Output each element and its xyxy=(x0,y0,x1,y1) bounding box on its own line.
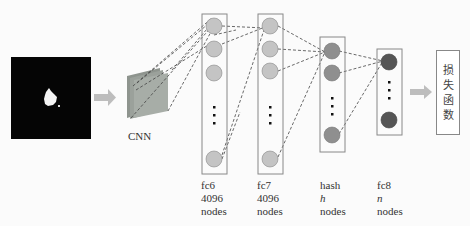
loss-char: 函 xyxy=(443,93,454,108)
layer-fc7 xyxy=(258,14,283,174)
arrow-right-icon xyxy=(94,89,116,106)
layer-label-hash: hash h nodes xyxy=(320,179,346,218)
loss-char: 损 xyxy=(443,63,454,78)
layer-fc8 xyxy=(377,49,402,135)
arrow-right-icon xyxy=(410,85,432,99)
layer-name: fc6 xyxy=(201,179,227,192)
layer-label-fc7: fc7 4096 nodes xyxy=(257,179,283,218)
layer-fc6 xyxy=(202,14,227,174)
loss-char: 数 xyxy=(443,108,454,123)
input-image xyxy=(11,57,91,139)
layer-name: fc8 xyxy=(377,179,403,192)
connections-fc7-hash xyxy=(278,26,325,157)
cnn-label: CNN xyxy=(128,130,151,142)
layer-label-fc6: fc6 4096 nodes xyxy=(201,179,227,218)
loss-char: 失 xyxy=(443,78,454,93)
layer-unit: nodes xyxy=(377,205,403,218)
layer-name: fc7 xyxy=(257,179,283,192)
layer-label-fc8: fc8 n nodes xyxy=(377,179,403,218)
loss-function-box: 损 失 函 数 xyxy=(436,50,460,135)
layer-unit: nodes xyxy=(257,205,283,218)
connections-hash-fc8 xyxy=(339,51,383,134)
cnn-feature-maps-icon xyxy=(127,68,168,119)
diagram-canvas: CNN fc6 4096 nodes fc7 4096 nodes hash h… xyxy=(0,0,470,226)
layer-size: h xyxy=(320,192,346,205)
layer-name: hash xyxy=(320,179,346,192)
layer-size: 4096 xyxy=(257,192,283,205)
layer-unit: nodes xyxy=(320,205,346,218)
layer-size: n xyxy=(377,192,403,205)
layer-size: 4096 xyxy=(201,192,227,205)
layer-unit: nodes xyxy=(201,205,227,218)
